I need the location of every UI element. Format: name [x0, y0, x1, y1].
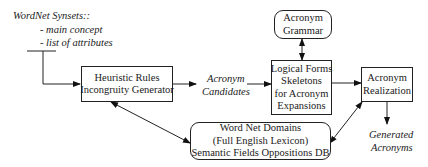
wordnet-line-2: (Full English Lexicon)	[213, 135, 309, 148]
output-label-1: Generated	[369, 129, 413, 142]
logical-forms-line-4: Expansions	[277, 100, 325, 113]
arrow-input-to-heuristic	[43, 51, 80, 84]
logical-forms-box: Logical Forms Skeletons for Acronym Expa…	[271, 60, 332, 115]
acronym-grammar-box: Acronym Grammar	[274, 10, 332, 39]
wordnet-line-3: Semantic Fields Oppositions DB	[192, 147, 330, 160]
output-label-2: Acronyms	[371, 142, 413, 155]
heuristic-line-2: Incongruity Generator	[80, 84, 174, 97]
heuristic-line-1: Heuristic Rules	[94, 72, 159, 85]
input-title: WordNet Synsets::	[13, 10, 90, 23]
logical-forms-line-3: for Acronym	[275, 88, 329, 101]
candidates-label-1: Acronym	[207, 73, 245, 86]
logical-forms-line-2: Skeletons	[281, 75, 322, 88]
heuristic-rules-box: Heuristic Rules Incongruity Generator	[81, 66, 173, 102]
input-item-attributes: - list of attributes	[40, 37, 113, 50]
arrow-wordnet-realization	[330, 102, 362, 143]
arrow-heuristic-wordnet	[111, 102, 190, 143]
wordnet-line-1: Word Net Domains	[220, 122, 301, 135]
grammar-line-1: Acronym	[283, 12, 323, 25]
realization-line-1: Acronym	[367, 72, 407, 85]
grammar-line-2: Grammar	[283, 25, 323, 38]
acronym-realization-box: Acronym Realization	[361, 67, 413, 102]
wordnet-domains-box: Word Net Domains (Full English Lexicon) …	[190, 122, 331, 160]
input-item-main-concept: - main concept	[40, 24, 102, 37]
candidates-label-2: Candidates	[202, 86, 250, 99]
logical-forms-line-1: Logical Forms	[271, 63, 333, 76]
realization-line-2: Realization	[363, 85, 411, 98]
